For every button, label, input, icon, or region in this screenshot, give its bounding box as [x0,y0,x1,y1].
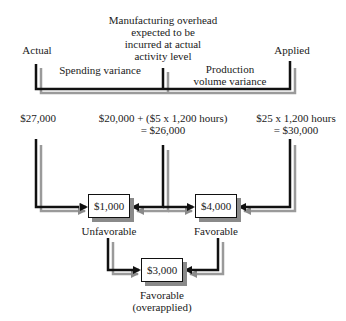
spending-variance-status: Unfavorable [74,225,144,237]
applied-amount: $25 x 1,200 hours = $30,000 [248,112,344,136]
actual-amount: $27,000 [10,112,66,124]
volume-variance-status: Favorable [181,225,251,237]
expected-formula: $20,000 + ($5 x 1,200 hours) [96,112,230,124]
production-volume-variance-label: Production volume variance [185,63,275,87]
expected-line-3: incurred at actual [98,38,228,50]
actual-label: Actual [6,44,68,56]
total-status-line-2: (overapplied) [122,301,202,313]
expected-amount: $20,000 + ($5 x 1,200 hours) = $26,000 [96,112,230,136]
total-variance-status: Favorable (overapplied) [122,289,202,313]
total-status-line-1: Favorable [122,289,202,301]
expected-line-4: activity level [98,50,228,62]
expected-line-1: Manufacturing overhead [98,14,228,26]
total-variance-box: $3,000 [141,258,183,282]
expected-label: Manufacturing overhead expected to be in… [98,14,228,62]
spending-variance-label: Spending variance [54,64,146,76]
applied-label: Applied [262,44,322,56]
expected-total: = $26,000 [96,124,230,136]
applied-formula: $25 x 1,200 hours [248,112,344,124]
volume-variance-box: $4,000 [195,194,237,218]
expected-line-2: expected to be [98,26,228,38]
volume-line-2: volume variance [185,75,275,87]
spending-variance-box: $1,000 [88,194,130,218]
applied-total: = $30,000 [248,124,344,136]
volume-line-1: Production [185,63,275,75]
